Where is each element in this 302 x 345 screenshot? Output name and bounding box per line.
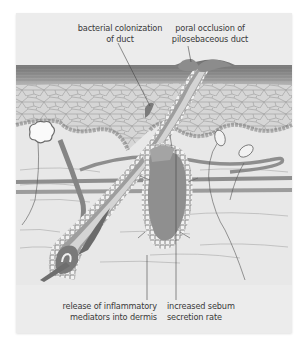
- acne-pathogenesis-illustration: [0, 0, 302, 345]
- stratum-corneum: [16, 60, 292, 85]
- label-increased-sebum: increased sebum secretion rate: [167, 301, 257, 322]
- label-poral-occlusion: poral occlusion of pilosebaceous duct: [160, 23, 260, 44]
- label-inflammatory-mediators: release of inflammatory mediators into d…: [40, 301, 157, 322]
- sweat-gland: [30, 121, 55, 142]
